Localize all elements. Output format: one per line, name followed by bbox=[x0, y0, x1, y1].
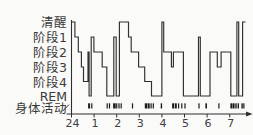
x-tick-label: 7 bbox=[221, 118, 241, 129]
movement-mark bbox=[243, 103, 244, 108]
movement-mark bbox=[148, 103, 150, 108]
movement-mark bbox=[145, 103, 148, 108]
movement-mark bbox=[198, 103, 199, 108]
movement-mark bbox=[116, 103, 117, 108]
movement-mark bbox=[118, 103, 119, 108]
movement-mark bbox=[184, 103, 185, 108]
x-tick-label: 5 bbox=[176, 118, 196, 129]
movement-mark bbox=[109, 103, 110, 108]
movement-mark bbox=[178, 103, 179, 108]
movement-mark bbox=[235, 103, 236, 108]
movement-mark bbox=[88, 103, 90, 108]
axis-break-mark bbox=[63, 105, 70, 112]
movement-mark bbox=[205, 103, 207, 108]
movement-mark bbox=[91, 103, 92, 108]
movement-mark bbox=[241, 103, 242, 108]
axis-arrow-icon bbox=[246, 111, 253, 116]
x-tick-label: 2 bbox=[108, 118, 128, 129]
x-tick-label: 1 bbox=[85, 118, 105, 129]
movement-mark bbox=[233, 103, 235, 108]
movement-mark bbox=[161, 103, 162, 108]
movement-mark bbox=[132, 103, 133, 108]
movement-mark bbox=[230, 103, 232, 108]
movement-mark bbox=[218, 103, 219, 108]
movement-mark bbox=[172, 103, 174, 108]
movement-mark bbox=[151, 103, 152, 108]
hypnogram-svg bbox=[0, 0, 253, 135]
movement-mark bbox=[238, 103, 239, 108]
x-tick-label: 4 bbox=[153, 118, 173, 129]
movement-mark bbox=[113, 103, 116, 108]
x-tick-label: 24 bbox=[63, 118, 83, 129]
movement-mark bbox=[153, 103, 154, 108]
hypnogram-figure: 清醒阶段1阶段2阶段3阶段4REM身体活动 241234567 bbox=[0, 0, 253, 135]
hypnogram-trace bbox=[72, 22, 246, 96]
movement-mark bbox=[121, 103, 122, 108]
x-tick-label: 6 bbox=[198, 118, 218, 129]
movement-mark bbox=[175, 103, 177, 108]
x-tick-label: 3 bbox=[130, 118, 150, 129]
movement-mark bbox=[181, 103, 182, 108]
movement-mark bbox=[107, 103, 108, 108]
